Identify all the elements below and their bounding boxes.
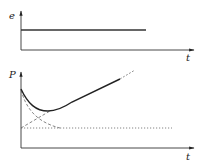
top-graph: e t (9, 10, 194, 63)
total-curve-extension (120, 70, 135, 79)
decaying-component-dashed (21, 90, 60, 128)
diagram-canvas: e t P t (0, 0, 205, 168)
rising-component-dashed (21, 111, 50, 128)
top-y-label: e (9, 10, 15, 21)
bottom-y-label: P (8, 69, 16, 80)
bottom-graph: P t (8, 69, 194, 162)
total-curve-solid (21, 79, 120, 111)
bottom-x-label: t (186, 151, 191, 162)
top-x-label: t (186, 52, 191, 63)
